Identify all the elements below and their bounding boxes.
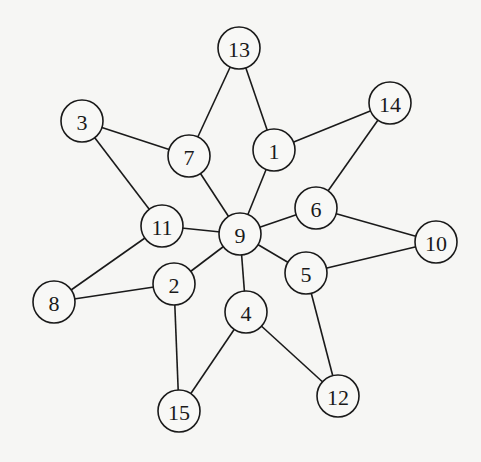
- node-label: 8: [49, 291, 60, 316]
- node-8: 8: [33, 281, 75, 323]
- node-label: 5: [301, 262, 312, 287]
- node-7: 7: [168, 135, 210, 177]
- node-3: 3: [61, 100, 103, 142]
- node-label: 11: [151, 215, 172, 240]
- node-12: 12: [317, 375, 359, 417]
- node-9: 9: [219, 213, 261, 255]
- node-label: 6: [311, 197, 322, 222]
- node-label: 13: [228, 37, 250, 62]
- node-13: 13: [218, 27, 260, 69]
- node-label: 9: [235, 223, 246, 248]
- node-11: 11: [141, 205, 183, 247]
- node-4: 4: [225, 291, 267, 333]
- node-label: 4: [241, 301, 252, 326]
- node-2: 2: [153, 263, 195, 305]
- node-label: 3: [77, 110, 88, 135]
- node-5: 5: [285, 252, 327, 294]
- node-label: 12: [327, 385, 349, 410]
- node-6: 6: [295, 187, 337, 229]
- graph-diagram: 131437161191052841215: [0, 0, 481, 462]
- node-10: 10: [415, 221, 457, 263]
- node-15: 15: [158, 390, 200, 432]
- node-label: 14: [379, 92, 401, 117]
- node-1: 1: [253, 129, 295, 171]
- node-label: 7: [184, 145, 195, 170]
- node-label: 2: [169, 273, 180, 298]
- node-label: 1: [269, 139, 280, 164]
- node-label: 15: [168, 400, 190, 425]
- node-14: 14: [369, 82, 411, 124]
- node-label: 10: [425, 231, 447, 256]
